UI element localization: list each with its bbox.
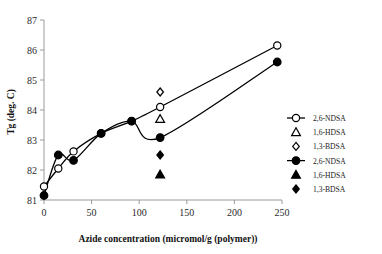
data-point-open-circle — [40, 183, 47, 190]
y-tick-label: 86 — [27, 45, 37, 56]
legend-entry: 1,6-HDSA — [292, 170, 347, 179]
data-point-filled-circle — [97, 130, 105, 138]
legend-entry: 1,6-HDSA — [292, 128, 347, 137]
y-axis-title: Tg (deg. C) — [6, 89, 17, 135]
legend-label: 1,6-HDSA — [313, 171, 346, 180]
x-axis-tick-labels: 050100150200250 — [42, 200, 290, 218]
x-tick-label: 200 — [227, 207, 242, 218]
legend-label: 1,6-HDSA — [313, 128, 346, 137]
x-tick-label: 100 — [132, 207, 147, 218]
data-point-filled-circle — [70, 157, 78, 165]
y-tick-label: 87 — [27, 15, 37, 26]
y-tick-label: 85 — [27, 75, 37, 86]
legend-label: 2,6-NDSA — [313, 157, 346, 166]
legend-marker-open-diamond — [293, 142, 300, 150]
data-point-filled-diamond — [157, 151, 164, 159]
data-point-open-circle — [55, 165, 62, 172]
x-tick-label: 50 — [87, 207, 97, 218]
y-tick-label: 81 — [27, 195, 37, 206]
data-point-open-circle — [157, 103, 164, 110]
x-tick-label: 150 — [179, 207, 194, 218]
y-axis-tick-labels: 81828384858687 — [27, 15, 44, 206]
legend-entry: 1,3-BDSA — [293, 185, 346, 194]
x-tick-label: 0 — [42, 207, 47, 218]
legend-label: 1,3-BDSA — [313, 185, 346, 194]
data-point-filled-circle — [156, 134, 164, 142]
data-point-open-circle — [274, 42, 281, 49]
data-point-open-triangle — [156, 115, 165, 123]
data-point-filled-triangle — [156, 170, 165, 178]
legend-label: 2,6-NDSA — [313, 114, 346, 123]
legend-label: 1,3-BDSA — [313, 142, 346, 151]
x-tick-label: 250 — [275, 207, 290, 218]
tg-vs-azide-concentration-chart: 81828384858687 050100150200250 2,6-NDSA1… — [0, 0, 382, 254]
chart-legend: 2,6-NDSA1,6-HDSA1,3-BDSA2,6-NDSA1,6-HDSA… — [287, 114, 346, 194]
legend-entry: 2,6-NDSA — [287, 114, 346, 123]
legend-entry: 2,6-NDSA — [287, 157, 346, 166]
legend-marker-filled-triangle — [292, 170, 301, 178]
data-point-filled-circle — [40, 192, 48, 200]
legend-marker-filled-diamond — [293, 185, 300, 193]
legend-entry: 1,3-BDSA — [293, 142, 346, 151]
legend-marker-filled-circle — [292, 157, 300, 165]
legend-marker-open-circle — [292, 114, 299, 121]
legend-marker-open-triangle — [292, 128, 301, 136]
data-point-filled-circle — [273, 58, 281, 66]
data-point-open-diamond — [157, 88, 164, 96]
chart-container: 81828384858687 050100150200250 2,6-NDSA1… — [0, 0, 382, 254]
x-axis-title: Azide concentration (micromol/g (polymer… — [79, 234, 258, 245]
y-tick-label: 82 — [27, 165, 37, 176]
data-point-filled-circle — [54, 151, 62, 159]
y-tick-label: 84 — [27, 105, 37, 116]
plot-series-markers — [40, 42, 281, 199]
data-point-open-circle — [70, 148, 77, 155]
data-point-filled-circle — [128, 117, 136, 125]
y-tick-label: 83 — [27, 135, 37, 146]
